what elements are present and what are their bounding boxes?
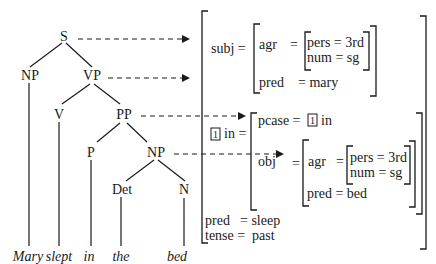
pred-value: = sleep [240,213,280,228]
node-S: S [60,29,68,44]
word-bed: bed [167,249,188,264]
obj-label: obj [258,154,276,169]
subj-pred-label: pred [259,75,284,90]
obj-agr-eq: = [336,154,344,169]
node-Det: Det [112,182,132,197]
subj-pers: pers = 3rd [307,35,364,50]
outer-left-bracket [202,11,208,243]
arrow-head-icon [182,35,190,43]
pcase-label: pcase = [258,113,301,128]
arrow-head-icon [182,74,190,82]
pcase-index: 1 [310,115,315,126]
arrow-head-icon [276,150,284,158]
in-right-bracket [416,113,422,214]
word-slept: slept [46,249,74,264]
node-PP: PP [116,107,132,122]
tense-value: past [252,228,275,243]
word-in: in [84,249,95,264]
in-left-bracket [251,113,257,210]
subj-num: num = sg [307,50,359,65]
subj-right-bracket [370,26,376,96]
word-the: the [112,249,129,264]
node-V: V [54,107,64,122]
subj-agr-eq: = [290,37,298,52]
pcase-value: in [321,113,332,128]
obj-agr-label: agr [308,154,326,169]
tense-label: tense = [205,228,245,243]
node-VP: VP [83,68,101,83]
node-P: P [87,145,95,160]
node-NP-subject: NP [21,68,39,83]
subj-pred-value: = mary [298,75,338,90]
obj-eq: = [292,156,300,171]
index-1: 1 [213,129,218,140]
obj-pers: pers = 3rd [350,150,407,165]
node-N: N [179,182,189,197]
node-NP-object: NP [147,145,165,160]
arrow-head-icon [238,112,246,120]
word-mary: Mary [12,249,44,264]
obj-num: num = sg [350,165,402,180]
pred-label: pred [205,213,230,228]
subj-label: subj = [211,41,246,56]
mapping-arrows [78,35,284,158]
in-label: in = [224,126,246,141]
subj-agr-right-bracket [363,32,369,70]
obj-pred: pred = bed [307,186,367,201]
c-structure-f-structure-diagram: S NP VP V PP P NP Det N Mary slept in th… [0,0,436,264]
subj-agr-label: agr [259,37,277,52]
